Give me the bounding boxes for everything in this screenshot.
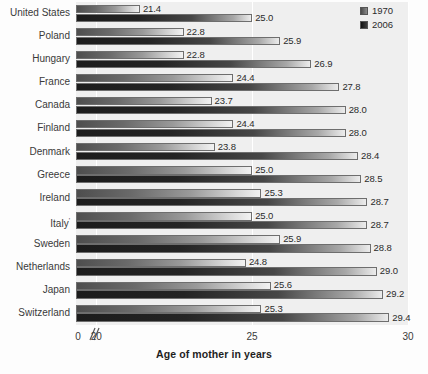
bar-value-label: 24.4	[236, 119, 254, 129]
bar-2006[interactable]	[76, 267, 377, 275]
legend-swatch-1970-icon	[360, 7, 368, 15]
category-label-canada: Canada	[0, 99, 70, 110]
category-label-finland: Finland	[0, 122, 70, 133]
bar-group: 24.427.8	[76, 71, 408, 94]
bar-value-label: 22.8	[187, 50, 205, 60]
bar-value-label: 28.8	[374, 243, 392, 253]
bar-value-label: 29.4	[392, 313, 410, 323]
bar-1970[interactable]	[76, 97, 212, 105]
bar-2006[interactable]	[76, 83, 339, 91]
bar-2006[interactable]	[76, 152, 358, 160]
bar-group: 25.028.7	[76, 210, 408, 233]
bar-value-label: 28.5	[364, 174, 382, 184]
x-tick-20: 20	[91, 331, 102, 342]
category-label-sweden: Sweden	[0, 238, 70, 249]
bar-value-label: 25.3	[264, 188, 282, 198]
category-axis: United StatesPolandHungaryFranceCanadaFi…	[0, 2, 73, 325]
bar-1970[interactable]	[76, 5, 140, 13]
bar-2006[interactable]	[76, 14, 252, 22]
bar-2006[interactable]	[76, 313, 389, 321]
bar-group: 22.826.9	[76, 48, 408, 71]
bar-1970[interactable]	[76, 282, 271, 290]
bar-value-label: 25.0	[255, 211, 273, 221]
footnote-mark: '	[69, 217, 70, 224]
bar-group: 25.928.8	[76, 233, 408, 256]
bar-2006[interactable]	[76, 60, 311, 68]
bar-1970[interactable]	[76, 166, 252, 174]
bar-1970[interactable]	[76, 28, 184, 36]
bar-2006[interactable]	[76, 175, 361, 183]
bar-group: 24.829.0	[76, 256, 408, 279]
legend-label-2006: 2006	[372, 20, 393, 30]
category-label-hungary: Hungary	[0, 53, 70, 64]
bar-value-label: 21.4	[143, 4, 161, 14]
bar-value-label: 26.9	[314, 59, 332, 69]
bar-2006[interactable]	[76, 198, 367, 206]
bar-1970[interactable]	[76, 143, 215, 151]
x-tick-25: 25	[247, 331, 258, 342]
bar-1970[interactable]	[76, 74, 233, 82]
bar-1970[interactable]	[76, 259, 246, 267]
bar-2006[interactable]	[76, 244, 371, 252]
bar-2006[interactable]	[76, 221, 367, 229]
bar-group: 21.425.0	[76, 2, 408, 25]
category-label-poland: Poland	[0, 30, 70, 41]
bar-chart: United StatesPolandHungaryFranceCanadaFi…	[0, 0, 428, 374]
category-label-united-states: United States	[0, 7, 70, 18]
category-label-france: France	[0, 76, 70, 87]
category-label-japan: Japan	[0, 284, 70, 295]
category-label-italy: Italy'	[0, 215, 70, 229]
bar-1970[interactable]	[76, 305, 261, 313]
category-label-switzerland: Switzerland	[0, 307, 70, 318]
category-label-greece: Greece	[0, 169, 70, 180]
bar-value-label: 23.7	[215, 96, 233, 106]
bar-value-label: 28.0	[349, 128, 367, 138]
bar-value-label: 28.7	[370, 197, 388, 207]
bar-group: 23.728.0	[76, 94, 408, 117]
bar-1970[interactable]	[76, 235, 280, 243]
bar-value-label: 28.0	[349, 105, 367, 115]
bar-group: 25.028.5	[76, 164, 408, 187]
bar-group: 24.428.0	[76, 117, 408, 140]
x-tick-30: 30	[402, 331, 413, 342]
bar-value-label: 27.8	[342, 82, 360, 92]
bar-group: 25.329.4	[76, 302, 408, 325]
legend-label-1970: 1970	[372, 6, 393, 16]
bar-group: 25.328.7	[76, 187, 408, 210]
bar-1970[interactable]	[76, 120, 233, 128]
bar-value-label: 25.6	[274, 280, 292, 290]
bar-value-label: 25.0	[255, 13, 273, 23]
category-label-ireland: Ireland	[0, 192, 70, 203]
x-tick-0: 0	[75, 331, 81, 342]
bar-value-label: 23.8	[218, 142, 236, 152]
plot-area: 21.425.022.825.922.826.924.427.823.728.0…	[76, 2, 408, 325]
bar-2006[interactable]	[76, 106, 346, 114]
category-label-netherlands: Netherlands	[0, 261, 70, 272]
legend-item-1970[interactable]: 1970	[360, 5, 424, 17]
category-label-denmark: Denmark	[0, 146, 70, 157]
x-axis: 0202530	[0, 325, 428, 349]
bar-group: 23.828.4	[76, 140, 408, 163]
bar-2006[interactable]	[76, 37, 280, 45]
gridline-30	[408, 2, 409, 325]
bar-value-label: 24.4	[236, 73, 254, 83]
legend-swatch-2006-icon	[360, 21, 368, 29]
legend: 1970 2006	[360, 5, 424, 33]
bar-value-label: 25.9	[283, 36, 301, 46]
bar-value-label: 25.0	[255, 165, 273, 175]
bar-value-label: 22.8	[187, 27, 205, 37]
axis-title: Age of mother in years	[0, 348, 428, 360]
bar-value-label: 24.8	[249, 257, 267, 267]
bar-1970[interactable]	[76, 51, 184, 59]
bar-group: 25.629.2	[76, 279, 408, 302]
bar-value-label: 29.2	[386, 289, 404, 299]
legend-item-2006[interactable]: 2006	[360, 19, 424, 31]
bar-value-label: 28.7	[370, 220, 388, 230]
bar-1970[interactable]	[76, 212, 252, 220]
bar-1970[interactable]	[76, 189, 261, 197]
bar-value-label: 29.0	[380, 266, 398, 276]
bar-2006[interactable]	[76, 129, 346, 137]
bar-value-label: 25.3	[264, 304, 282, 314]
bar-group: 22.825.9	[76, 25, 408, 48]
bar-2006[interactable]	[76, 290, 383, 298]
